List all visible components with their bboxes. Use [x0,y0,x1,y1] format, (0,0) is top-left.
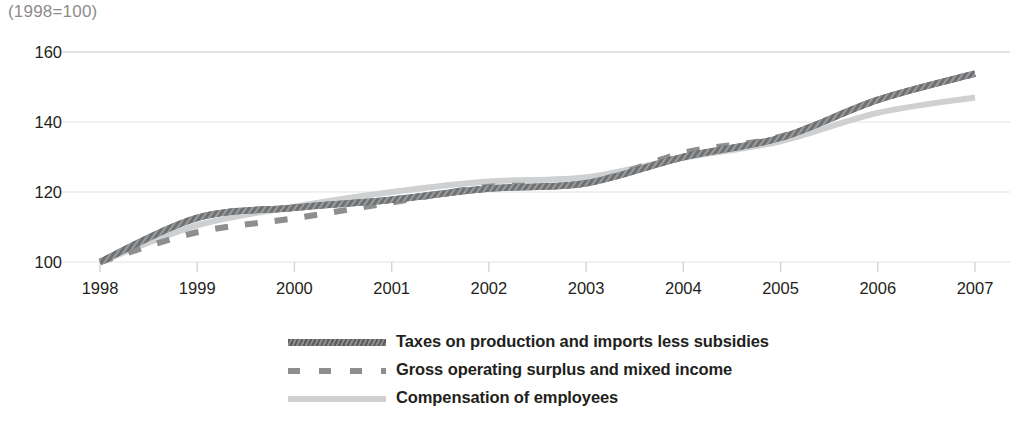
legend-swatch-gross-operating-surplus-icon [288,368,386,374]
series-line-1 [100,74,975,262]
chart-container: (1998=100) 100120140160 1998199920002001… [0,0,1028,424]
legend-label-gross-operating-surplus: Gross operating surplus and mixed income [396,360,732,379]
x-axis-tick-labels: 1998199920002001200220032004200520062007 [82,279,994,297]
line-chart-plot: 100120140160 199819992000200120022003200… [0,0,1028,330]
gridlines [62,52,1010,262]
x-tick-2002: 2002 [471,279,508,297]
x-tick-2001: 2001 [373,279,410,297]
x-tick-2003: 2003 [568,279,605,297]
legend-item-taxes: Taxes on production and imports less sub… [288,328,848,354]
chart-legend: Taxes on production and imports less sub… [288,328,848,412]
y-tick-160: 160 [34,43,62,61]
legend-swatch-taxes-icon [288,339,386,346]
x-axis-ticks [100,262,975,272]
legend-item-gross-operating-surplus: Gross operating surplus and mixed income [288,356,848,382]
legend-item-compensation: Compensation of employees [288,384,848,410]
legend-label-compensation: Compensation of employees [396,388,618,407]
y-tick-120: 120 [34,183,62,201]
y-tick-140: 140 [34,113,62,131]
x-tick-1998: 1998 [82,279,119,297]
y-tick-100: 100 [34,253,62,271]
x-tick-2000: 2000 [276,279,313,297]
legend-label-taxes: Taxes on production and imports less sub… [396,332,769,351]
x-tick-2005: 2005 [762,279,799,297]
x-tick-2006: 2006 [859,279,896,297]
x-tick-2004: 2004 [665,279,702,297]
x-tick-1999: 1999 [179,279,216,297]
y-axis-tick-labels: 100120140160 [34,43,62,271]
series-lines [100,74,975,262]
legend-swatch-compensation-icon [288,396,386,402]
x-tick-2007: 2007 [957,279,994,297]
series-line-0-texture [100,74,975,262]
series-line-0 [100,74,975,262]
